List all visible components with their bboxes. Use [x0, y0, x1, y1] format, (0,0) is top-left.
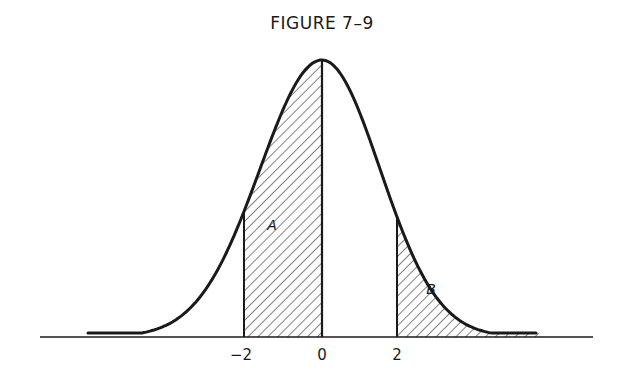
x-tick-2: 2 [392, 346, 402, 364]
region-a-hatch [244, 60, 322, 337]
region-b-hatch [397, 217, 539, 337]
region-a-label: A [266, 217, 277, 233]
figure-title: FIGURE 7–9 [270, 13, 374, 33]
x-tick-0: 0 [317, 346, 327, 364]
figure-canvas: FIGURE 7–9 A B −2 0 2 [0, 0, 623, 390]
region-b-label: B [426, 281, 436, 297]
x-tick-minus-2: −2 [230, 346, 252, 364]
